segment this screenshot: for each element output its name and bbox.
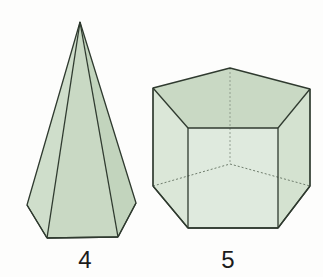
solids-illustration [0,0,323,277]
figure-canvas: 4 5 [0,0,323,277]
pentagonal-prism-group [153,68,310,228]
figure-label-5: 5 [208,246,248,274]
figure-label-4: 4 [65,246,105,274]
prism-face-front [188,128,278,228]
pentagonal-pyramid-group [27,22,136,238]
